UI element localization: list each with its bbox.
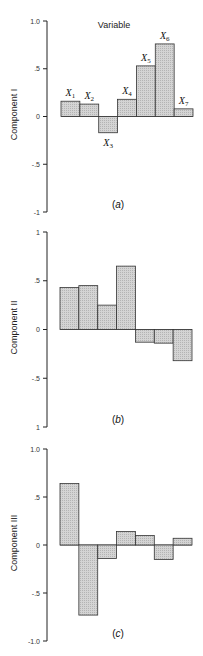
bar-x3 [99,117,118,133]
y-tick-label: -.5 [32,590,40,597]
bar-label: X4 [121,85,132,98]
bar-x6 [155,44,174,117]
y-tick-label: 0 [36,113,40,120]
bar-label: X6 [159,30,170,43]
bar-x2 [80,104,99,116]
y-axis-label: Component III [9,515,19,572]
y-axis-label: Component II [9,300,19,354]
panel-label: (b) [112,414,124,425]
bar-x2 [79,286,98,330]
bar-x4 [117,532,136,545]
bar-label: X3 [102,137,113,150]
bar-x1 [60,288,79,330]
bar-x3 [98,305,117,329]
y-tick-label: -.5 [32,161,40,168]
bar-x1 [60,484,79,545]
bar-x5 [135,330,154,343]
bar-x2 [79,545,98,615]
y-tick-label: -.5 [32,375,40,382]
y-axis-label: Component I [9,89,19,141]
y-tick-label: -1.0 [28,638,40,645]
panel-component-ii: 1.50-.51Component II(b) [9,229,192,431]
y-tick-label: 1 [36,424,40,431]
y-tick-label: -1 [34,209,40,216]
chart-title: Variable [98,20,130,30]
bar-x6 [154,330,173,344]
bar-x4 [117,266,136,329]
bar-x3 [98,545,117,558]
bar-x5 [135,535,154,545]
panel-component-i: 1.0.50-.5-1Component IX1X2X3X4X5X6X7Vari… [9,18,193,216]
y-tick-label: 0 [36,326,40,333]
y-tick-label: .5 [34,277,40,284]
y-tick-label: .5 [34,494,40,501]
y-tick-label: 1.0 [30,18,40,25]
principal-components-chart: 1.0.50-.5-1Component IX1X2X3X4X5X6X7Vari… [0,0,203,656]
bar-x4 [118,99,137,116]
panel-component-iii: 1.0.50-.5-1.0Component III(c) [9,446,192,645]
bar-label: X1 [65,87,76,100]
bar-label: X7 [178,95,189,108]
panel-label: (a) [112,199,124,210]
bar-label: X5 [140,52,151,65]
y-tick-label: 1 [36,229,40,236]
panel-label: (c) [112,628,124,639]
y-tick-label: 0 [36,542,40,549]
bar-x1 [61,101,80,116]
bar-x7 [173,330,192,361]
bar-x6 [154,545,173,559]
bar-x5 [136,66,155,117]
bar-x7 [173,538,192,545]
bar-x7 [174,109,193,117]
bar-label: X2 [83,90,94,103]
y-tick-label: 1.0 [30,446,40,453]
y-tick-label: .5 [34,65,40,72]
